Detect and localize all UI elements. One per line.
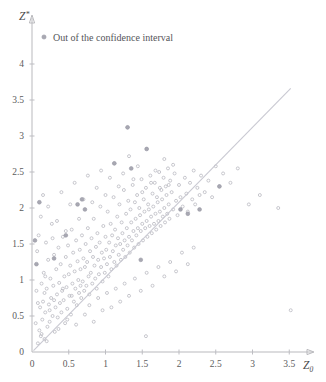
data-point: [172, 163, 175, 166]
data-point: [55, 293, 58, 296]
data-point: [53, 299, 56, 302]
data-point: [55, 219, 58, 222]
data-point: [104, 235, 107, 238]
data-point: [166, 167, 169, 170]
data-point: [64, 255, 67, 258]
identity-reference-line: [33, 88, 290, 350]
legend-marker-icon: [42, 35, 46, 39]
data-point: [40, 282, 43, 285]
data-point: [37, 234, 40, 237]
data-point: [66, 307, 69, 310]
data-point: [69, 264, 72, 267]
data-point: [158, 171, 161, 174]
data-point: [44, 241, 47, 244]
data-point: [71, 282, 74, 285]
data-point: [179, 208, 183, 212]
data-point: [85, 284, 88, 287]
data-point: [162, 176, 165, 179]
data-point: [116, 237, 119, 240]
data-point: [83, 266, 86, 269]
data-point: [108, 176, 111, 179]
data-point: [97, 297, 100, 300]
data-point: [43, 291, 46, 294]
data-point: [211, 196, 214, 199]
data-point: [60, 311, 63, 314]
data-point: [75, 239, 78, 242]
data-point: [140, 178, 143, 181]
data-point: [64, 230, 67, 233]
data-point: [289, 309, 292, 312]
data-point: [39, 215, 42, 218]
data-point: [143, 210, 146, 213]
data-point: [126, 244, 129, 247]
data-point: [175, 199, 178, 202]
data-point: [98, 241, 101, 244]
data-point: [50, 297, 53, 300]
data-point: [104, 194, 107, 197]
data-point: [139, 214, 142, 217]
data-point: [144, 227, 147, 230]
data-point: [95, 186, 98, 189]
x-tick-label: 2: [177, 359, 182, 369]
data-point: [145, 147, 149, 151]
data-point: [203, 191, 206, 194]
data-point: [100, 169, 103, 172]
data-point: [92, 320, 95, 323]
data-point: [72, 300, 75, 303]
data-point: [79, 268, 82, 271]
data-point: [75, 323, 78, 326]
data-point: [93, 264, 96, 267]
data-point: [108, 255, 111, 258]
data-point: [125, 212, 128, 215]
data-point: [86, 261, 89, 264]
data-point: [94, 277, 97, 280]
data-point: [109, 222, 112, 225]
data-point: [76, 203, 80, 207]
data-point: [59, 263, 62, 266]
data-point: [58, 281, 61, 284]
data-point: [132, 178, 135, 181]
data-point: [65, 286, 68, 289]
data-point: [147, 203, 150, 206]
data-point: [150, 181, 153, 184]
data-point: [130, 221, 133, 224]
data-point: [117, 185, 120, 188]
data-point: [89, 271, 92, 274]
data-point: [168, 217, 171, 220]
data-point: [64, 233, 68, 237]
data-point: [163, 275, 166, 278]
data-point: [80, 197, 84, 201]
data-point: [167, 203, 170, 206]
data-point: [141, 191, 144, 194]
data-point: [120, 221, 123, 224]
data-point: [134, 217, 137, 220]
data-point: [47, 303, 50, 306]
data-point: [47, 258, 50, 261]
data-point: [132, 230, 135, 233]
data-point: [48, 309, 51, 312]
data-point: [138, 207, 141, 210]
data-point: [142, 198, 145, 201]
data-point: [83, 208, 87, 212]
data-point: [49, 277, 52, 280]
data-point: [80, 234, 83, 237]
data-point: [92, 255, 95, 258]
data-point: [207, 179, 210, 182]
data-point: [149, 174, 152, 177]
data-point: [50, 222, 53, 225]
data-point: [74, 287, 77, 290]
data-point: [103, 257, 106, 260]
data-point: [141, 222, 144, 225]
data-point: [192, 169, 195, 172]
data-point: [39, 306, 42, 309]
y-tick-label: 1.5: [12, 239, 24, 249]
data-point: [52, 257, 56, 261]
data-point: [167, 183, 170, 186]
data-point: [218, 185, 222, 189]
data-point: [136, 227, 139, 230]
data-point: [36, 302, 39, 305]
y-tick-label: 2.5: [12, 167, 24, 177]
data-point: [79, 284, 82, 287]
data-point: [90, 237, 93, 240]
x-tick-label: 3.5: [283, 359, 295, 369]
